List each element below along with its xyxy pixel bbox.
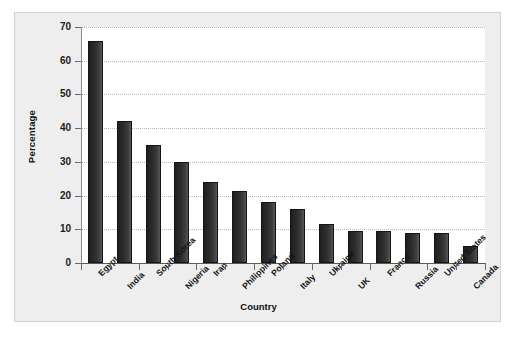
y-axis-tick	[75, 94, 81, 95]
x-axis-tick	[485, 263, 486, 270]
x-axis-category-label: India	[125, 270, 146, 291]
y-axis-tick	[75, 128, 81, 129]
y-axis-line	[81, 27, 82, 264]
x-axis-tick	[254, 263, 255, 270]
gridline	[81, 27, 485, 28]
x-axis-tick	[398, 263, 399, 270]
bar	[146, 145, 161, 263]
gridline	[81, 61, 485, 62]
bar	[232, 191, 247, 263]
y-axis-label: 0	[35, 258, 71, 268]
x-axis-tick	[312, 263, 313, 270]
bar	[88, 41, 103, 264]
chart-figure: Percentage Country 010203040506070EgyptI…	[14, 12, 501, 322]
x-axis-tick	[370, 263, 371, 270]
x-axis-tick	[341, 263, 342, 270]
gridline	[81, 196, 485, 197]
y-axis-title: Percentage	[26, 89, 37, 185]
y-axis-tick	[75, 61, 81, 62]
y-axis-label: 30	[35, 157, 71, 167]
y-axis-tick	[75, 196, 81, 197]
y-axis-tick	[75, 162, 81, 163]
bar	[117, 121, 132, 263]
y-axis-label: 40	[35, 123, 71, 133]
gridline	[81, 94, 485, 95]
x-axis-category-label: Italy	[298, 272, 317, 291]
bar	[319, 224, 334, 263]
y-axis-label: 70	[35, 22, 71, 32]
plot-area	[81, 27, 485, 263]
x-axis-tick	[283, 263, 284, 270]
gridline	[81, 229, 485, 230]
x-axis-tick	[81, 263, 82, 270]
x-axis-tick	[456, 263, 457, 270]
y-axis-label: 50	[35, 89, 71, 99]
x-axis-tick	[139, 263, 140, 270]
x-axis-title: Country	[15, 301, 502, 312]
bar	[376, 231, 391, 263]
y-axis-label: 60	[35, 56, 71, 66]
x-axis-tick	[427, 263, 428, 270]
x-axis-tick	[110, 263, 111, 270]
y-axis-tick	[75, 27, 81, 28]
gridline	[81, 128, 485, 129]
y-axis-label: 20	[35, 191, 71, 201]
bar	[434, 233, 449, 263]
bar	[203, 182, 218, 263]
gridline	[81, 162, 485, 163]
y-axis-tick	[75, 229, 81, 230]
x-axis-tick	[196, 263, 197, 270]
y-axis-label: 10	[35, 224, 71, 234]
x-axis-category-label: UK	[356, 275, 372, 291]
x-axis-tick	[168, 263, 169, 270]
x-axis-tick	[225, 263, 226, 270]
